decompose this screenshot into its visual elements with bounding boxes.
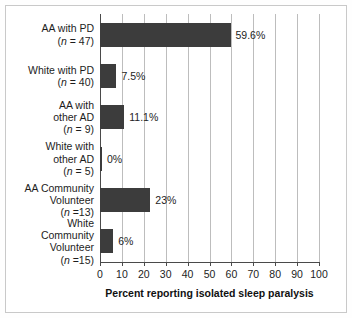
category-label-column: AA with PD(n = 47)White with PD(n = 40)A…: [8, 14, 94, 262]
x-tick-label: 20: [138, 268, 150, 280]
bar-series: 59.6%7.5%11.1%0%23%6%: [100, 14, 319, 262]
n-symbol: n: [67, 123, 73, 135]
category-label-line: other AD: [8, 111, 94, 123]
plot-area: 59.6%7.5%11.1%0%23%6%: [100, 14, 319, 262]
bar-row: 23%: [100, 188, 319, 212]
x-tick: [210, 262, 211, 266]
x-tick: [231, 262, 232, 266]
x-tick-label: 60: [226, 268, 238, 280]
category-label: AA withother AD(n = 9): [8, 99, 94, 136]
x-tick-label: 70: [247, 268, 259, 280]
category-label-line: AA with: [8, 99, 94, 111]
category-sample-size: (n =15): [8, 254, 94, 266]
category-label-line: AA Community: [8, 182, 94, 194]
category-label-line: Community: [8, 229, 94, 241]
category-label-line: Volunteer: [8, 194, 94, 206]
bar-row: 7.5%: [100, 64, 319, 88]
bar-value-label: 6%: [113, 229, 133, 253]
x-tick: [100, 262, 101, 266]
bar: [100, 229, 113, 253]
x-tick-label: 40: [182, 268, 194, 280]
bar-row: 11.1%: [100, 105, 319, 129]
category-sample-size: (n = 9): [8, 123, 94, 135]
n-symbol: n: [64, 254, 70, 266]
x-tick: [253, 262, 254, 266]
bar-value-label: 0%: [102, 147, 122, 171]
x-tick: [166, 262, 167, 266]
bar-value-label: 7.5%: [116, 64, 145, 88]
x-tick: [297, 262, 298, 266]
x-tick-label: 0: [97, 268, 103, 280]
x-tick: [144, 262, 145, 266]
bar-value-label: 11.1%: [124, 105, 158, 129]
n-symbol: n: [61, 35, 67, 47]
category-sample-size: (n = 40): [8, 76, 94, 88]
x-tick-label: 50: [204, 268, 216, 280]
x-tick-label: 90: [291, 268, 303, 280]
bar-row: 0%: [100, 147, 319, 171]
x-tick: [122, 262, 123, 266]
category-label: WhiteCommunityVolunteer(n =15): [8, 217, 94, 266]
category-label: White withother AD(n = 5): [8, 140, 94, 177]
x-tick-label: 80: [269, 268, 281, 280]
figure: AA with PD(n = 47)White with PD(n = 40)A…: [0, 0, 352, 318]
category-label-line: White: [8, 217, 94, 229]
category-label-line: Volunteer: [8, 241, 94, 253]
x-tick-label: 30: [160, 268, 172, 280]
x-tick: [275, 262, 276, 266]
category-sample-size: (n = 47): [8, 35, 94, 47]
gridline-100: [319, 14, 320, 262]
x-tick: [188, 262, 189, 266]
bar-row: 59.6%: [100, 23, 319, 47]
category-label: AA CommunityVolunteer(n =13): [8, 182, 94, 219]
bar: [100, 188, 150, 212]
category-label: AA with PD(n = 47): [8, 22, 94, 46]
category-sample-size: (n = 5): [8, 165, 94, 177]
bar-value-label: 59.6%: [231, 23, 266, 47]
category-label-line: White with: [8, 140, 94, 152]
category-label-line: White with PD: [8, 64, 94, 76]
n-symbol: n: [67, 165, 73, 177]
x-tick-label: 10: [116, 268, 128, 280]
category-label-line: other AD: [8, 153, 94, 165]
bar: [100, 64, 116, 88]
x-axis-title: Percent reporting isolated sleep paralys…: [100, 287, 319, 299]
category-label-line: AA with PD: [8, 22, 94, 34]
bar: [100, 23, 231, 47]
bar: [100, 105, 124, 129]
bar-row: 6%: [100, 229, 319, 253]
x-tick-label: 100: [310, 268, 328, 280]
bar-value-label: 23%: [150, 188, 176, 212]
category-label: White with PD(n = 40): [8, 64, 94, 88]
n-symbol: n: [61, 76, 67, 88]
x-tick: [319, 262, 320, 266]
